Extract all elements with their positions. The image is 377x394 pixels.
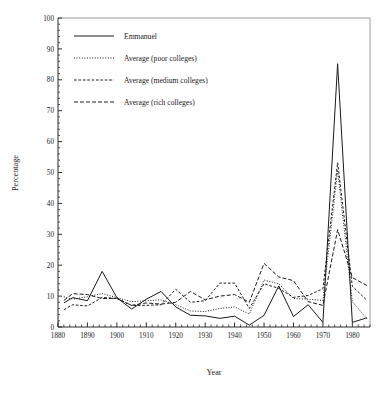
x-axis-ticks: 1880189019001910192019301940195019601970…: [51, 323, 370, 341]
x-tick-label: 1970: [316, 332, 331, 340]
series-line-3: [64, 230, 367, 306]
x-tick-label: 1960: [286, 332, 301, 340]
legend-label-2: Average (medium colleges): [124, 76, 208, 85]
plot-frame: [58, 18, 370, 327]
series-line-0: [64, 64, 367, 325]
y-tick-label: 100: [43, 15, 54, 23]
legend-label-1: Average (poor colleges): [124, 54, 197, 63]
chart-figure: 0102030405060708090100 18801890190019101…: [0, 0, 377, 394]
y-tick-label: 90: [47, 46, 55, 54]
y-tick-label: 30: [47, 231, 55, 239]
x-tick-label: 1900: [110, 332, 125, 340]
legend-label-3: Average (rich colleges): [124, 98, 195, 107]
y-tick-label: 60: [47, 138, 55, 146]
legend-label-0: Emmanuel: [124, 32, 157, 41]
x-tick-label: 1980: [345, 332, 360, 340]
x-tick-label: 1910: [139, 332, 154, 340]
y-tick-label: 40: [47, 200, 55, 208]
x-tick-label: 1940: [227, 332, 242, 340]
y-tick-label: 80: [47, 76, 55, 84]
y-tick-label: 20: [47, 262, 55, 270]
y-tick-label: 70: [47, 107, 55, 115]
x-axis-title: Year: [206, 368, 221, 377]
x-tick-label: 1930: [198, 332, 213, 340]
data-series-group: [64, 64, 367, 325]
chart-legend: EmmanuelAverage (poor colleges)Average (…: [74, 32, 208, 107]
x-tick-label: 1880: [51, 332, 66, 340]
y-axis-ticks: 0102030405060708090100: [43, 15, 62, 332]
x-tick-label: 1920: [169, 332, 184, 340]
y-tick-label: 50: [47, 169, 55, 177]
x-tick-label: 1950: [257, 332, 272, 340]
series-line-1: [64, 170, 367, 319]
x-tick-label: 1890: [80, 332, 95, 340]
y-axis-title: Percentage: [11, 155, 20, 191]
y-tick-label: 10: [47, 293, 55, 301]
y-tick-label: 0: [50, 324, 54, 332]
series-line-2: [64, 163, 367, 310]
